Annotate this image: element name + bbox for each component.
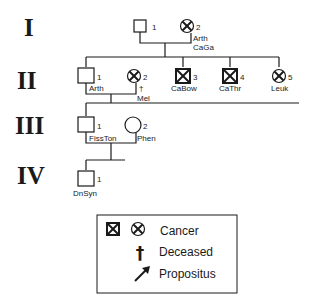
individual-number: 5 bbox=[288, 73, 293, 82]
male-symbol bbox=[78, 171, 94, 186]
individual-ii5: 5 Leuk bbox=[271, 70, 293, 94]
male-symbol bbox=[134, 20, 146, 32]
individual-ii3: 3 CaBow bbox=[171, 69, 198, 93]
deceased-icon: † bbox=[139, 84, 143, 93]
individual-iii2: 2 Phen bbox=[125, 117, 156, 143]
condition-label: DnSyn bbox=[73, 189, 97, 198]
female-symbol bbox=[125, 117, 141, 133]
individual-number: 2 bbox=[196, 23, 201, 32]
condition-label: FissTon bbox=[89, 134, 117, 143]
individual-number: 1 bbox=[152, 23, 157, 32]
generation-label-i: I bbox=[24, 14, 34, 41]
condition-label: CaBow bbox=[171, 84, 197, 93]
condition-label: Arth bbox=[89, 84, 104, 93]
pedigree-chart: I II III IV 1 2 Arth CaGa 1 Arth 2 † Mel bbox=[0, 0, 310, 304]
legend-deceased-label: Deceased bbox=[159, 245, 213, 259]
individual-number: 2 bbox=[143, 122, 148, 131]
generation-label-iii: III bbox=[15, 112, 44, 139]
legend: Cancer † Deceased Propositus bbox=[97, 215, 237, 293]
male-symbol bbox=[78, 68, 94, 83]
condition-label: CaGa bbox=[193, 43, 214, 52]
condition-label: Mel bbox=[137, 94, 150, 103]
individual-number: 4 bbox=[240, 73, 245, 82]
deceased-icon: † bbox=[136, 243, 145, 263]
individual-iii1: 1 FissTon bbox=[78, 117, 117, 143]
legend-cancer-label: Cancer bbox=[160, 224, 199, 238]
condition-label: Leuk bbox=[271, 84, 289, 93]
condition-label: CaThr bbox=[219, 84, 242, 93]
individual-i2: 2 Arth CaGa bbox=[181, 20, 215, 53]
generation-label-iv: IV bbox=[17, 162, 45, 189]
individual-ii4: 4 CaThr bbox=[219, 69, 245, 93]
individual-number: 1 bbox=[97, 175, 102, 184]
generation-label-ii: II bbox=[17, 67, 36, 94]
individual-number: 3 bbox=[193, 73, 198, 82]
individual-iv1: 1 DnSyn bbox=[73, 171, 102, 198]
male-symbol bbox=[78, 117, 94, 132]
individual-number: 1 bbox=[97, 73, 102, 82]
individual-number: 1 bbox=[97, 122, 102, 131]
individual-ii2: 2 † Mel bbox=[128, 70, 151, 104]
legend-propositus-label: Propositus bbox=[159, 267, 216, 281]
individual-number: 2 bbox=[143, 73, 148, 82]
condition-label: Arth bbox=[193, 34, 208, 43]
individual-i1: 1 bbox=[134, 20, 157, 32]
condition-label: Phen bbox=[137, 134, 156, 143]
individual-ii1: 1 Arth bbox=[78, 68, 104, 93]
